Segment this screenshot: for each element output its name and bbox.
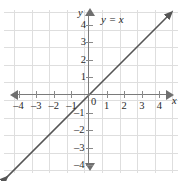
y-tick-label: 4 [76,19,86,30]
x-tick-label: –4 [13,101,24,112]
coordinate-plane-figure: –4–3–2–112344321–1–2–3–4 y = x x y 0 [0,0,183,181]
y-axis-tick [86,60,93,61]
y-axis-tick [86,42,93,43]
equation-annotation: y = x [101,13,124,25]
y-axis-tick [86,148,93,149]
x-axis-tick [19,91,20,98]
y-axis-tick [86,113,93,114]
x-tick-label: 2 [122,101,127,112]
y-axis-tick [86,77,93,78]
y-tick-label: –2 [74,125,84,136]
x-axis-tick [142,91,143,98]
x-tick-label: –2 [49,101,60,112]
y-tick-label: 3 [76,37,86,48]
origin-label: 0 [91,96,96,107]
x-tick-label: 4 [157,101,162,112]
y-axis-tick [86,165,93,166]
y-axis-tick [86,130,93,131]
y-axis-down-arrow-icon [85,163,95,171]
x-axis-tick [54,91,55,98]
x-tick-label: 3 [139,101,144,112]
y-tick-label: 2 [76,55,86,66]
x-tick-label: –3 [31,101,42,112]
y-tick-label: –1 [74,107,84,118]
x-axis-left-arrow-icon [10,90,18,100]
y-axis-up-arrow-icon [85,8,95,16]
x-axis-tick [159,91,160,98]
x-axis-tick [107,91,108,98]
y-tick-label: –3 [74,143,84,154]
y-axis-label: y [78,7,83,18]
y-tick-label: –4 [74,160,84,171]
y-axis [88,14,89,166]
x-axis-tick [36,91,37,98]
y-tick-label: 1 [76,72,86,83]
x-axis-tick [71,91,72,98]
x-tick-label: 1 [104,101,109,112]
x-axis-label: x [172,95,177,106]
y-axis-tick [86,25,93,26]
function-line-layer [0,0,183,181]
x-axis-tick [124,91,125,98]
